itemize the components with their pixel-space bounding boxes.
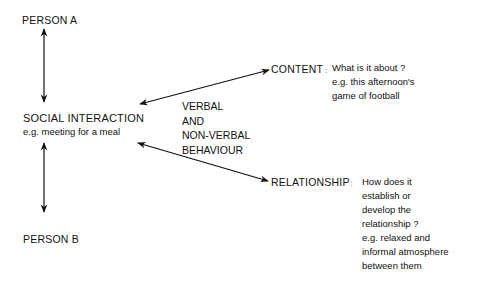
channel-line: AND	[182, 114, 250, 129]
content-line: game of football	[332, 89, 415, 103]
relationship-line: e.g. relaxed and	[362, 231, 449, 245]
social-interaction-title: SOCIAL INTERACTION	[23, 113, 144, 124]
relationship-separator: :	[351, 180, 353, 187]
relationship-line: establish or	[362, 189, 449, 203]
content-label-text: CONTENT	[271, 63, 323, 75]
person-b-label: PERSON B	[23, 234, 79, 245]
relationship-line: How does it	[362, 175, 449, 189]
relationship-label: RELATIONSHIP:	[271, 177, 353, 188]
relationship-description: How does it establish or develop the rel…	[362, 175, 449, 273]
social-interaction-example: e.g. meeting for a meal	[23, 127, 120, 137]
channel-line: NON-VERBAL	[182, 128, 250, 143]
channel-label: VERBAL AND NON-VERBAL BEHAVIOUR	[182, 99, 250, 157]
relationship-line: informal atmosphere	[362, 245, 449, 259]
relationship-line: between them	[362, 259, 449, 273]
content-description: What is it about ? e.g. this afternoon's…	[332, 61, 415, 103]
content-label: CONTENT:	[271, 64, 327, 75]
relationship-line: relationship ?	[362, 217, 449, 231]
content-line: What is it about ?	[332, 61, 415, 75]
relationship-label-text: RELATIONSHIP	[271, 176, 350, 188]
channel-line: BEHAVIOUR	[182, 143, 250, 158]
person-a-label: PERSON A	[22, 15, 77, 26]
content-line: e.g. this afternoon's	[332, 75, 415, 89]
relationship-line: develop the	[362, 203, 449, 217]
channel-line: VERBAL	[182, 99, 250, 114]
content-separator: :	[325, 67, 327, 74]
